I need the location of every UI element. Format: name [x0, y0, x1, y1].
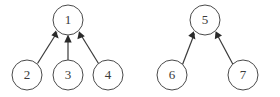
node-6[interactable]: 6 [157, 60, 187, 90]
node-4[interactable]: 4 [93, 60, 123, 90]
node-5-label: 5 [202, 12, 209, 27]
edge-3-to-1 [64, 35, 71, 61]
node-3[interactable]: 3 [53, 60, 83, 90]
edge-6-to-5-arrowhead [188, 31, 195, 39]
node-1-label: 1 [65, 12, 72, 27]
edge-7-to-5 [215, 31, 233, 64]
edge-3-to-1-arrowhead [64, 35, 71, 43]
node-7[interactable]: 7 [228, 60, 258, 90]
edge-2-to-1-arrowhead [51, 31, 58, 39]
edge-6-to-5-line [183, 34, 195, 65]
edge-4-to-1-arrowhead [77, 31, 84, 39]
graph-diagram: 1 2 3 4 5 6 7 [0, 0, 280, 97]
edge-7-to-5-line [217, 34, 234, 65]
edge-4-to-1-line [80, 34, 99, 64]
node-7-label: 7 [240, 67, 247, 82]
edge-6-to-5 [183, 31, 196, 64]
edge-4-to-1 [77, 31, 98, 63]
node-1[interactable]: 1 [53, 5, 83, 35]
node-5[interactable]: 5 [190, 5, 220, 35]
node-2-label: 2 [24, 67, 31, 82]
edge-2-to-1 [38, 31, 59, 64]
node-6-label: 6 [169, 67, 176, 82]
node-2[interactable]: 2 [12, 60, 42, 90]
node-3-label: 3 [65, 67, 72, 82]
edge-2-to-1-line [38, 33, 58, 64]
node-4-label: 4 [105, 67, 112, 82]
